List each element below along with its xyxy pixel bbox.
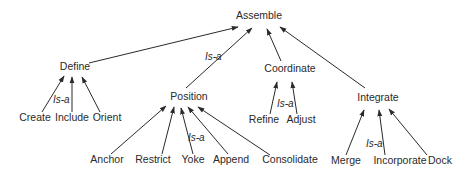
edge-orient-to-define xyxy=(82,77,100,112)
edge-dock-to-integrate xyxy=(389,109,427,155)
node-append: Append xyxy=(213,153,249,165)
isa-label: Is-a xyxy=(188,132,205,143)
node-define: Define xyxy=(60,60,91,72)
edge-refine-to-coordinate xyxy=(270,82,277,114)
node-root: Assemble xyxy=(236,9,282,21)
node-consolidate: Consolidate xyxy=(262,153,318,165)
isa-label: Is-a xyxy=(205,51,222,62)
nodes-layer: Assemble DefinePositionCoordinateIntegra… xyxy=(19,9,452,166)
node-refine: Refine xyxy=(249,113,280,125)
node-yoke: Yoke xyxy=(182,153,205,165)
node-coordinate: Coordinate xyxy=(264,62,316,74)
node-dock: Dock xyxy=(428,154,453,166)
edge-restrict-to-position xyxy=(162,107,174,154)
node-integrate: Integrate xyxy=(357,91,399,103)
isa-label: Is-a xyxy=(366,138,383,149)
node-merge: Merge xyxy=(331,154,361,166)
isa-label: Is-a xyxy=(53,94,70,105)
edge-integrate-to-assemble xyxy=(280,27,365,88)
node-orient: Orient xyxy=(93,111,122,123)
edge-merge-to-integrate xyxy=(346,110,364,155)
node-position: Position xyxy=(170,90,208,102)
edge-yoke-to-position xyxy=(181,108,193,154)
node-create: Create xyxy=(19,111,51,123)
isa-label: Is-a xyxy=(277,98,294,109)
node-adjust: Adjust xyxy=(286,113,315,125)
node-include: Include xyxy=(55,111,89,123)
node-incorporate: Incorporate xyxy=(373,154,426,166)
edge-coordinate-to-assemble xyxy=(267,29,281,61)
node-restrict: Restrict xyxy=(135,153,171,165)
node-anchor: Anchor xyxy=(90,153,124,165)
hierarchy-diagram: Is-aIs-aIs-aIs-aIs-a Assemble DefinePosi… xyxy=(0,0,463,176)
